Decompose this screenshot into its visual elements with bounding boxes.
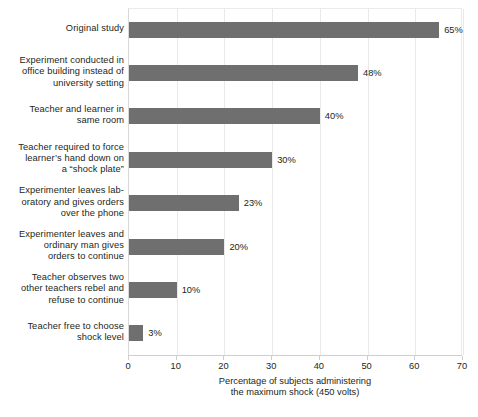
gridline: [368, 9, 369, 355]
x-axis-tick-label: 40: [314, 361, 324, 371]
x-axis-tick: [462, 356, 463, 360]
gridline: [463, 9, 464, 355]
category-labels: Original studyExperiment conducted in of…: [0, 0, 124, 355]
x-axis-title: Percentage of subjects administering the…: [128, 376, 462, 399]
x-axis-tick-label: 30: [266, 361, 276, 371]
gridline: [415, 9, 416, 355]
bar: [129, 195, 239, 211]
bar-value-label: 20%: [229, 239, 248, 255]
bar-value-label: 65%: [444, 22, 463, 38]
x-axis-tick-label: 0: [125, 361, 130, 371]
bar: [129, 65, 358, 81]
gridline: [272, 9, 273, 355]
plot-area: [128, 8, 462, 355]
category-label: Teacher free to choose shock level: [0, 321, 124, 344]
bar: [129, 325, 143, 341]
bar-chart: Original studyExperiment conducted in of…: [0, 0, 478, 417]
x-axis-tick: [128, 356, 129, 360]
bar-value-label: 10%: [182, 282, 201, 298]
x-axis-tick-label: 70: [457, 361, 467, 371]
gridline: [224, 9, 225, 355]
bar: [129, 108, 320, 124]
category-label: Experimenter leaves lab- oratory and giv…: [0, 185, 124, 219]
x-axis-tick-label: 10: [171, 361, 181, 371]
bar: [129, 282, 177, 298]
x-axis-tick: [271, 356, 272, 360]
x-axis-tick: [223, 356, 224, 360]
bar-value-label: 3%: [148, 325, 161, 341]
category-label: Experimenter leaves and ordinary man giv…: [0, 229, 124, 263]
gridline: [320, 9, 321, 355]
x-axis-tick: [176, 356, 177, 360]
x-axis-tick-label: 60: [409, 361, 419, 371]
x-axis-tick-label: 50: [361, 361, 371, 371]
x-axis-tick: [319, 356, 320, 360]
bar-value-label: 23%: [244, 195, 263, 211]
category-label: Teacher and learner in same room: [0, 104, 124, 127]
bar-value-label: 48%: [363, 65, 382, 81]
category-label: Teacher observes two other teachers rebe…: [0, 272, 124, 306]
bar: [129, 152, 272, 168]
x-axis-tick: [414, 356, 415, 360]
bar: [129, 239, 224, 255]
gridline: [177, 9, 178, 355]
bar: [129, 22, 439, 38]
x-axis-tick: [367, 356, 368, 360]
category-label: Teacher required to force learner’s hand…: [0, 142, 124, 176]
category-label: Original study: [0, 23, 124, 34]
category-label: Experiment conducted in office building …: [0, 55, 124, 89]
bar-value-label: 40%: [325, 108, 344, 124]
bar-value-label: 30%: [277, 152, 296, 168]
x-axis-line: [128, 355, 462, 356]
x-axis-tick-label: 20: [218, 361, 228, 371]
